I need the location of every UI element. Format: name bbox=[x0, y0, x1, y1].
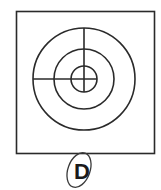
option-label: D bbox=[62, 152, 102, 188]
option-letter: D bbox=[74, 159, 90, 185]
outer-square bbox=[17, 12, 155, 154]
